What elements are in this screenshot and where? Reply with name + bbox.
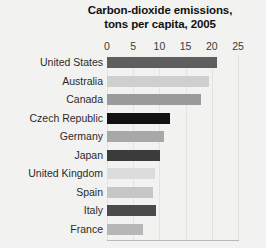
category-label-czech-republic: Czech Republic [0,112,103,124]
chart-title-line-1: Carbon-dioxide emissions, [60,4,260,18]
category-label-united-kingdom: United Kingdom [0,167,103,179]
x-tick-label-0: 0 [95,40,119,52]
x-tick-label-5: 5 [121,40,145,52]
bar-chart: Carbon-dioxide emissions, tons per capit… [0,0,266,248]
bar-spain [107,187,153,198]
category-label-japan: Japan [0,149,103,161]
bar-australia [107,76,209,87]
bar-italy [107,205,156,216]
gridline-20 [212,55,213,240]
bar-czech-republic [107,113,170,124]
category-label-germany: Germany [0,130,103,142]
bar-germany [107,131,164,142]
plot-area [107,55,238,240]
bar-japan [107,150,160,161]
x-tick-label-25: 25 [226,40,250,52]
x-axis-line [107,240,239,241]
bar-united-kingdom [107,168,155,179]
category-label-spain: Spain [0,186,103,198]
x-tick-label-15: 15 [174,40,198,52]
x-tick-label-10: 10 [147,40,171,52]
bar-canada [107,94,201,105]
category-label-canada: Canada [0,93,103,105]
gridline-25 [238,55,239,240]
category-label-united-states: United States [0,56,103,68]
chart-title: Carbon-dioxide emissions, tons per capit… [60,4,260,31]
bar-united-states [107,57,217,68]
category-label-italy: Italy [0,204,103,216]
chart-title-line-2: tons per capita, 2005 [60,18,260,32]
category-label-australia: Australia [0,75,103,87]
category-label-france: France [0,223,103,235]
bar-france [107,224,143,235]
x-tick-label-20: 20 [200,40,224,52]
